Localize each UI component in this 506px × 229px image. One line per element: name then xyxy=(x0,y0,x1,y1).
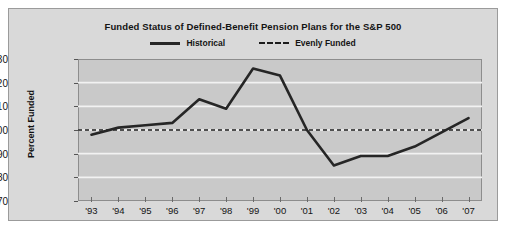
x-tick-mark xyxy=(145,197,146,202)
x-tick-label: '02 xyxy=(321,205,347,216)
chart-legend: Historical Evenly Funded xyxy=(9,38,497,48)
x-tick-mark xyxy=(226,197,227,202)
y-axis-label: Percent Funded xyxy=(24,59,38,189)
y-tick-mark xyxy=(74,154,78,155)
chart-canvas xyxy=(78,59,482,201)
x-tick-mark xyxy=(172,197,173,202)
x-tick-label: '05 xyxy=(402,205,428,216)
x-tick-label: '07 xyxy=(456,205,482,216)
y-tick-label: 100 xyxy=(0,125,8,136)
legend-entry-evenly-funded: Evenly Funded xyxy=(259,38,355,48)
legend-label-historical: Historical xyxy=(186,38,225,48)
x-tick-mark xyxy=(280,197,281,202)
y-tick-label: 70 xyxy=(0,196,8,207)
legend-entry-historical: Historical xyxy=(150,38,225,48)
x-tick-label: '01 xyxy=(294,205,320,216)
chart-title: Funded Status of Defined-Benefit Pension… xyxy=(9,21,497,32)
x-tick-mark xyxy=(442,197,443,202)
y-tick-mark xyxy=(74,106,78,107)
x-tick-label: '97 xyxy=(186,205,212,216)
x-tick-mark xyxy=(253,197,254,202)
x-tick-mark xyxy=(118,197,119,202)
plot-area: 708090100110120130 '93'94'95'96'97'98'99… xyxy=(78,59,482,201)
y-tick-label: 120 xyxy=(0,77,8,88)
y-tick-mark xyxy=(74,201,78,202)
x-tick-label: '03 xyxy=(348,205,374,216)
x-tick-mark xyxy=(91,197,92,202)
x-tick-label: '06 xyxy=(429,205,455,216)
x-tick-label: '95 xyxy=(132,205,158,216)
legend-label-evenly-funded: Evenly Funded xyxy=(295,38,355,48)
x-tick-label: '04 xyxy=(375,205,401,216)
x-tick-mark xyxy=(415,197,416,202)
y-tick-mark xyxy=(74,177,78,178)
x-tick-mark xyxy=(199,197,200,202)
solid-line-swatch-icon xyxy=(150,42,180,45)
x-tick-mark xyxy=(361,197,362,202)
y-tick-label: 90 xyxy=(0,148,8,159)
y-tick-label: 110 xyxy=(0,101,8,112)
x-tick-mark xyxy=(469,197,470,202)
x-tick-label: '98 xyxy=(213,205,239,216)
x-tick-label: '94 xyxy=(105,205,131,216)
y-tick-label: 130 xyxy=(0,54,8,65)
x-tick-label: '00 xyxy=(267,205,293,216)
x-tick-mark xyxy=(334,197,335,202)
chart-figure: Funded Status of Defined-Benefit Pension… xyxy=(8,8,498,221)
x-tick-label: '93 xyxy=(78,205,104,216)
y-tick-mark xyxy=(74,130,78,131)
dashed-line-swatch-icon xyxy=(259,42,289,44)
x-tick-label: '96 xyxy=(159,205,185,216)
x-tick-label: '99 xyxy=(240,205,266,216)
y-tick-label: 80 xyxy=(0,172,8,183)
y-tick-mark xyxy=(74,83,78,84)
x-tick-mark xyxy=(307,197,308,202)
y-tick-mark xyxy=(74,59,78,60)
x-tick-mark xyxy=(388,197,389,202)
